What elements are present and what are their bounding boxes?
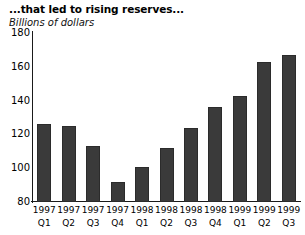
x-axis-tick-quarter: Q2 xyxy=(252,217,276,230)
y-axis-tick-label: 140 xyxy=(2,96,30,106)
x-axis-tick-quarter: Q3 xyxy=(277,217,301,230)
y-axis-tick-label: 160 xyxy=(2,62,30,72)
x-axis-tick-label: 1997Q4 xyxy=(105,204,129,230)
x-axis-tick-quarter: Q3 xyxy=(81,217,105,230)
bar xyxy=(135,167,149,202)
x-axis-tick-quarter: Q1 xyxy=(32,217,56,230)
x-axis-tick-year: 1997 xyxy=(81,204,105,217)
bar xyxy=(111,182,125,202)
x-axis-tick-year: 1999 xyxy=(228,204,252,217)
x-axis-tick-quarter: Q2 xyxy=(154,217,178,230)
bar xyxy=(257,62,271,202)
x-axis-tick-year: 1998 xyxy=(130,204,154,217)
x-axis-tick-quarter: Q1 xyxy=(228,217,252,230)
x-axis-tick-quarter: Q1 xyxy=(130,217,154,230)
bar xyxy=(184,128,198,202)
bar xyxy=(62,126,76,202)
x-axis-tick-label: 1999Q1 xyxy=(228,204,252,230)
y-axis-tick-label: 120 xyxy=(2,129,30,139)
bar xyxy=(37,124,51,202)
x-axis-tick-quarter: Q3 xyxy=(179,217,203,230)
chart-title: ...that led to rising reserves... xyxy=(9,3,184,15)
x-axis-tick-year: 1997 xyxy=(105,204,129,217)
y-axis-tick-label: 180 xyxy=(2,28,30,38)
x-axis-tick-quarter: Q2 xyxy=(56,217,80,230)
x-axis-tick-quarter: Q4 xyxy=(203,217,227,230)
x-axis-tick-year: 1998 xyxy=(203,204,227,217)
bar-series xyxy=(32,33,301,202)
x-axis-tick-labels: 1997Q11997Q21997Q31997Q41998Q11998Q21998… xyxy=(32,204,301,235)
y-axis-tick-labels: 80100120140160180 xyxy=(0,0,30,235)
x-axis-tick-year: 1999 xyxy=(252,204,276,217)
x-axis-tick-year: 1997 xyxy=(56,204,80,217)
chart-figure: ...that led to rising reserves... Billio… xyxy=(0,0,305,235)
x-axis-tick-label: 1997Q3 xyxy=(81,204,105,230)
bar xyxy=(208,107,222,202)
y-axis-tick-label: 100 xyxy=(2,163,30,173)
x-axis-tick-label: 1997Q1 xyxy=(32,204,56,230)
x-axis-tick-label: 1998Q2 xyxy=(154,204,178,230)
x-axis-tick-label: 1999Q2 xyxy=(252,204,276,230)
x-axis-tick-year: 1998 xyxy=(179,204,203,217)
x-axis-tick-label: 1998Q4 xyxy=(203,204,227,230)
x-axis-tick-year: 1998 xyxy=(154,204,178,217)
x-axis-tick-quarter: Q4 xyxy=(105,217,129,230)
x-axis-tick-label: 1998Q1 xyxy=(130,204,154,230)
x-axis-tick-label: 1999Q3 xyxy=(277,204,301,230)
bar xyxy=(233,96,247,202)
bar xyxy=(160,148,174,202)
bar xyxy=(282,55,296,202)
x-axis-tick-label: 1997Q2 xyxy=(56,204,80,230)
bar xyxy=(86,146,100,202)
y-axis-tick-label: 80 xyxy=(2,197,30,207)
x-axis-tick-label: 1998Q3 xyxy=(179,204,203,230)
x-axis-tick-year: 1997 xyxy=(32,204,56,217)
x-axis-tick-year: 1999 xyxy=(277,204,301,217)
